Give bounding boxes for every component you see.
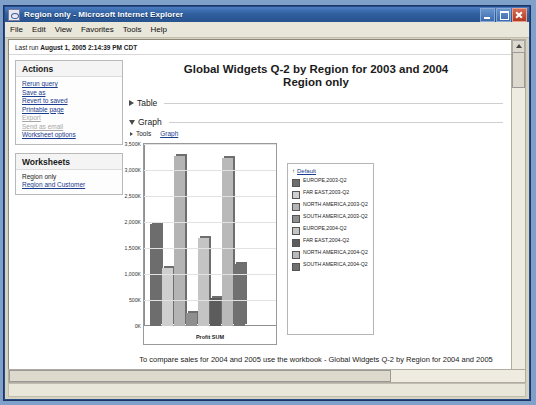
chart-bar[interactable] (198, 238, 209, 326)
footer-note: To compare sales for 2004 and 2005 use t… (129, 355, 503, 364)
legend-swatch (292, 179, 300, 187)
chart-bar[interactable] (162, 268, 173, 326)
menu-item-help[interactable]: Help (150, 25, 166, 34)
table-section-label: Table (137, 98, 157, 108)
y-axis-line (144, 144, 145, 326)
legend-item[interactable]: SOUTH AMERICA,2004-Q2 (292, 262, 370, 271)
menu-bar: File Edit View Favorites Tools Help (5, 22, 529, 38)
legend-items: EUROPE,2003-Q2FAR EAST,2003-Q2NORTH AMER… (292, 178, 370, 271)
legend-item[interactable]: SOUTH AMERICA,2003-Q2 (292, 214, 370, 223)
table-section[interactable]: Table (129, 98, 503, 108)
report-title-line1: Global Widgets Q-2 by Region for 2003 an… (184, 63, 448, 75)
report-title-line2: Region only (129, 76, 503, 89)
action-export: Export (22, 114, 122, 123)
graph-section[interactable]: Graph Tools Graph (129, 117, 503, 137)
worksheet-region-and-customer[interactable]: Region and Customer (22, 181, 122, 190)
legend-label: NORTH AMERICA,2004-Q2 (303, 250, 368, 256)
legend-item[interactable]: FAR EAST,2004-Q2 (292, 238, 370, 247)
tools-graph-link[interactable]: Graph (160, 130, 178, 137)
x-axis-label: Profit SUM (144, 334, 276, 340)
legend-label: FAR EAST,2004-Q2 (303, 238, 349, 244)
legend-item[interactable]: FAR EAST,2003-Q2 (292, 190, 370, 199)
y-axis-tick: 3,500K (125, 141, 141, 147)
gridline (144, 274, 276, 275)
legend-swatch (292, 263, 300, 271)
action-worksheet-options[interactable]: Worksheet options (22, 131, 122, 140)
title-bar: Region only - Microsoft Internet Explore… (5, 7, 529, 22)
legend-label: FAR EAST,2003-Q2 (303, 190, 349, 196)
y-axis-tick: 2,500K (125, 193, 141, 199)
gridline (144, 144, 276, 145)
y-axis-tick: 0K (135, 323, 141, 329)
legend-item[interactable]: EUROPE,2004-Q2 (292, 226, 370, 235)
chart-bar[interactable] (150, 224, 161, 326)
action-revert-to-saved[interactable]: Revert to saved (22, 97, 122, 106)
chart-bar[interactable] (186, 313, 197, 326)
vertical-scroll-thumb[interactable] (512, 52, 525, 88)
report-title: Global Widgets Q-2 by Region for 2003 an… (129, 63, 503, 89)
worksheets-panel: Worksheets Region only Region and Custom… (15, 153, 123, 195)
y-axis-tick: 3,000K (125, 167, 141, 173)
actions-list: Rerun query Save as Revert to saved Prin… (16, 77, 122, 144)
legend-label: SOUTH AMERICA,2003-Q2 (303, 214, 368, 220)
graph-tools-row: Tools Graph (130, 130, 503, 137)
tools-triangle-right-icon[interactable] (130, 132, 133, 136)
menu-item-edit[interactable]: Edit (32, 25, 46, 34)
legend-item[interactable]: NORTH AMERICA,2004-Q2 (292, 250, 370, 259)
expand-triangle-right-icon[interactable] (129, 100, 134, 106)
legend-swatch (292, 227, 300, 235)
report-main: Global Widgets Q-2 by Region for 2003 an… (123, 55, 513, 364)
y-axis-tick: 1,500K (125, 245, 141, 251)
legend-label: NORTH AMERICA,2003-Q2 (303, 202, 368, 208)
gridline (144, 222, 276, 223)
last-run-label: Last run (15, 44, 39, 51)
window-buttons (480, 8, 527, 22)
last-run-value: August 1, 2005 2:14:39 PM CDT (40, 44, 137, 51)
gridline (144, 248, 276, 249)
legend-swatch (292, 239, 300, 247)
action-save-as[interactable]: Save as (22, 89, 122, 98)
collapse-triangle-down-icon[interactable] (129, 120, 135, 125)
window-title: Region only - Microsoft Internet Explore… (24, 10, 183, 19)
legend-swatch (292, 191, 300, 199)
legend-item[interactable]: NORTH AMERICA,2003-Q2 (292, 202, 370, 211)
chart-bar[interactable] (234, 264, 245, 326)
menu-item-file[interactable]: File (10, 25, 23, 34)
legend-label: EUROPE,2003-Q2 (303, 178, 347, 184)
actions-panel: Actions Rerun query Save as Revert to sa… (15, 60, 123, 145)
last-run-status: Last run August 1, 2005 2:14:39 PM CDT (9, 40, 513, 55)
section-divider (164, 103, 503, 104)
horizontal-scroll-thumb[interactable] (9, 370, 391, 382)
gridline (144, 196, 276, 197)
vertical-scrollbar[interactable] (511, 39, 526, 395)
y-axis-tick: 1,000K (125, 271, 141, 277)
minimize-button[interactable] (480, 8, 495, 22)
chart-bar[interactable] (210, 298, 221, 326)
legend-header-link[interactable]: Default (297, 168, 316, 174)
y-axis-tick: 2,000K (125, 219, 141, 225)
menu-item-favorites[interactable]: Favorites (81, 25, 114, 34)
legend-label: SOUTH AMERICA,2004-Q2 (303, 262, 368, 268)
action-rerun-query[interactable]: Rerun query (22, 80, 122, 89)
maximize-button[interactable] (496, 8, 511, 22)
tools-label: Tools (136, 130, 151, 137)
section-divider (169, 122, 503, 123)
worksheet-region-only[interactable]: Region only (22, 173, 122, 182)
horizontal-scrollbar[interactable] (8, 369, 526, 383)
ie-document-icon (8, 9, 20, 21)
gridline (144, 300, 276, 301)
gridline (144, 170, 276, 171)
legend-swatch (292, 251, 300, 259)
menu-item-tools[interactable]: Tools (123, 25, 142, 34)
legend-item[interactable]: EUROPE,2003-Q2 (292, 178, 370, 187)
legend-swatch (292, 203, 300, 211)
sort-ascending-icon[interactable]: ↑ (292, 168, 295, 174)
legend-header[interactable]: ↑ Default (292, 168, 370, 174)
y-axis: 3,500K3,000K2,500K2,000K1,500K1,000K500K… (119, 144, 144, 326)
action-send-as-email: Send as email (22, 123, 122, 132)
action-printable-page[interactable]: Printable page (22, 106, 122, 115)
menu-item-view[interactable]: View (55, 25, 72, 34)
status-bar (8, 383, 526, 397)
close-button[interactable] (512, 8, 527, 22)
legend-label: EUROPE,2004-Q2 (303, 226, 347, 232)
